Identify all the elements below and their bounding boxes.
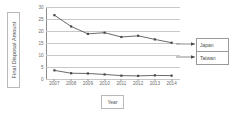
legend-box: Japan Taiwan	[196, 38, 229, 65]
data-point-marker	[137, 35, 139, 37]
legend-item-label: Japan	[200, 42, 214, 48]
x-tick-label: 2011	[116, 81, 126, 86]
series-plot	[46, 7, 180, 79]
data-point-marker	[137, 75, 139, 77]
data-point-marker	[120, 75, 122, 77]
data-point-marker	[120, 36, 122, 38]
data-point-marker	[104, 32, 106, 34]
y-axis-title-box: Final Disposal Amount	[7, 12, 20, 88]
y-tick-label: 5	[41, 65, 44, 70]
data-point-marker	[154, 74, 156, 76]
legend-item-japan[interactable]: Japan	[197, 39, 228, 52]
data-point-marker	[87, 33, 89, 35]
x-tick-label: 2010	[100, 81, 110, 86]
data-point-marker	[171, 75, 173, 77]
data-point-marker	[104, 73, 106, 75]
x-tick-labels-group: 20072008200920102011201220132014	[46, 81, 180, 91]
legend-item-label: Taiwan	[200, 55, 216, 61]
data-point-marker	[171, 42, 173, 44]
data-point-marker	[70, 25, 72, 27]
data-point-marker	[53, 14, 55, 16]
y-tick-label: 10	[38, 53, 43, 58]
data-point-marker	[70, 72, 72, 74]
data-point-marker	[154, 38, 156, 40]
y-tick-label: 30	[38, 5, 43, 10]
legend-item-taiwan[interactable]: Taiwan	[197, 52, 228, 65]
x-tick-label: 2012	[133, 81, 143, 86]
y-tick-label: 15	[38, 41, 43, 46]
y-axis-title-label: Final Disposal Amount	[11, 22, 17, 79]
y-tick-label: 20	[38, 29, 43, 34]
x-axis-title-box: Year	[101, 95, 124, 109]
data-point-marker	[53, 69, 55, 71]
x-tick-label: 2013	[150, 81, 160, 86]
chart-figure: Final Disposal Amount 051015202530 20072…	[0, 0, 232, 115]
x-tick-label: 2014	[167, 81, 177, 86]
y-tick-label: 25	[38, 17, 43, 22]
x-axis-title-label: Year	[107, 99, 117, 105]
gridline	[46, 79, 180, 80]
x-tick-label: 2007	[49, 81, 59, 86]
plot-area: 051015202530	[46, 7, 180, 79]
y-tick-label: 0	[41, 77, 44, 82]
x-tick-label: 2009	[83, 81, 93, 86]
data-point-marker	[87, 72, 89, 74]
x-tick-label: 2008	[66, 81, 76, 86]
